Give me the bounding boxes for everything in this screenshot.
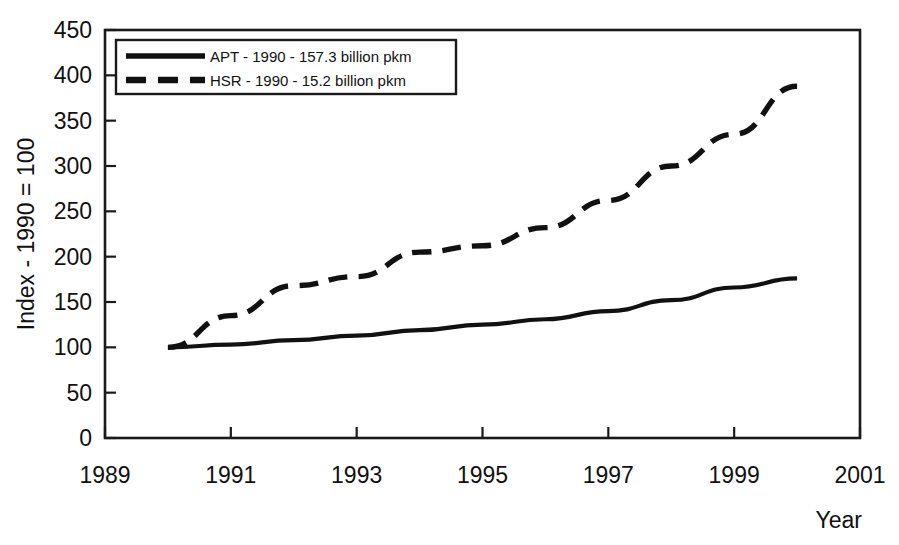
y-tick-label: 350 <box>54 108 92 134</box>
x-tick-label: 2001 <box>834 462 885 488</box>
y-tick-label: 450 <box>54 17 92 43</box>
y-tick-label: 250 <box>54 198 92 224</box>
x-tick-label: 1995 <box>457 462 508 488</box>
x-tick-label: 1999 <box>709 462 760 488</box>
legend-label-apt: APT - 1990 - 157.3 billion pkm <box>210 48 412 65</box>
y-tick-label: 0 <box>79 425 92 451</box>
y-axis-tick-labels: 050100150200250300350400450 <box>54 17 92 451</box>
y-tick-label: 150 <box>54 289 92 315</box>
y-tick-label: 200 <box>54 244 92 270</box>
chart-legend: APT - 1990 - 157.3 billion pkm HSR - 199… <box>116 40 456 94</box>
series-line-hsr <box>168 86 797 347</box>
y-tick-label: 50 <box>66 380 92 406</box>
y-tick-label: 100 <box>54 334 92 360</box>
y-axis-title: Index - 1990 = 100 <box>13 138 39 330</box>
chart-container: 050100150200250300350400450 198919911993… <box>0 0 899 545</box>
x-tick-label: 1997 <box>583 462 634 488</box>
x-tick-label: 1993 <box>331 462 382 488</box>
x-tick-label: 1989 <box>79 462 130 488</box>
series-line-apt <box>168 278 797 347</box>
y-tick-label: 400 <box>54 62 92 88</box>
y-axis-ticks <box>105 30 116 438</box>
line-chart: 050100150200250300350400450 198919911993… <box>0 0 899 545</box>
y-tick-label: 300 <box>54 153 92 179</box>
x-axis-title: Year <box>816 507 863 533</box>
x-axis-tick-labels: 1989199119931995199719992001 <box>79 462 885 488</box>
x-axis-ticks <box>105 427 860 438</box>
x-tick-label: 1991 <box>205 462 256 488</box>
legend-label-hsr: HSR - 1990 - 15.2 billion pkm <box>210 72 406 89</box>
